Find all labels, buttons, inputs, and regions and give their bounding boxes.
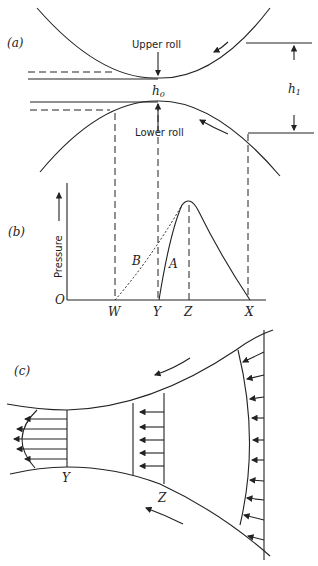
lower-roll <box>40 101 280 176</box>
tick-w: W <box>108 305 122 319</box>
curve-b-label: B <box>131 254 141 268</box>
curve-a-label: A <box>168 257 178 271</box>
panel-a-label: (a) <box>7 36 24 50</box>
lower-boundary <box>10 467 270 556</box>
panel-c-label: (c) <box>14 364 30 378</box>
pressure-axis-label: Pressure <box>53 235 64 278</box>
lower-roll-label: Lower roll <box>135 127 184 138</box>
rolling-diagram: (a) Upper roll h0 Lower roll h1 (b) Pres… <box>0 0 318 566</box>
curve-a <box>159 201 250 300</box>
tick-y: Y <box>153 305 162 319</box>
h1-label: h1 <box>288 82 301 97</box>
lower-roll-rotation-arrow <box>200 120 228 134</box>
tick-z: Z <box>183 305 193 319</box>
panel-c: (c) Y Z <box>7 330 273 560</box>
tick-x: X <box>244 305 254 319</box>
tick-z-c: Z <box>157 491 167 505</box>
upper-flow-arrow <box>155 358 190 375</box>
lower-flow-arrow <box>146 508 183 524</box>
curve-b <box>115 205 182 300</box>
upper-boundary <box>7 330 273 410</box>
panel-b-label: (b) <box>8 225 25 239</box>
upper-roll-label: Upper roll <box>132 39 181 50</box>
upper-roll-rotation-arrow <box>214 42 228 52</box>
h0-label: h0 <box>152 84 165 99</box>
origin-label: O <box>55 293 65 307</box>
tick-y-c: Y <box>62 471 71 485</box>
panel-b: (b) Pressure O B A W Y Z X <box>8 183 266 319</box>
